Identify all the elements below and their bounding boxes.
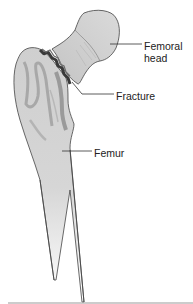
femoral-head-label-line1: Femoral	[144, 40, 183, 52]
femoral-head-label: Femoral head	[144, 40, 183, 64]
femoral-head-label-line2: head	[144, 52, 183, 64]
fracture-label: Fracture	[116, 90, 155, 102]
femur-label: Femur	[94, 147, 124, 159]
femur-bone	[14, 48, 84, 302]
